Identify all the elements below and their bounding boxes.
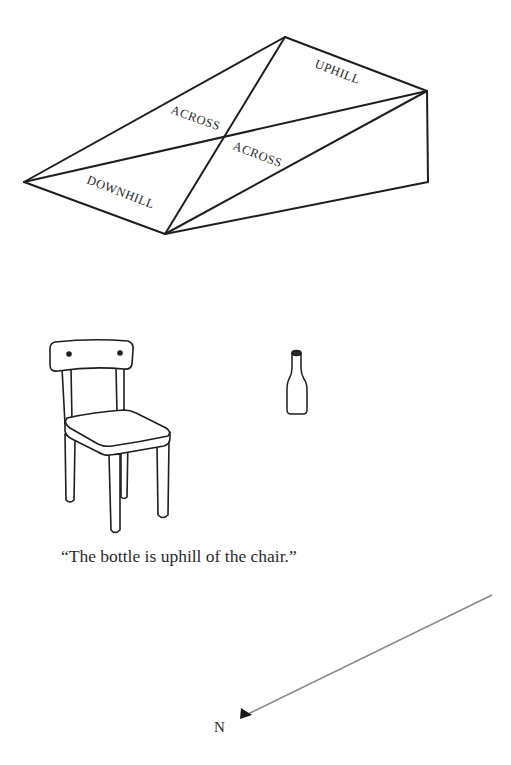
chair-front-left-leg bbox=[65, 434, 75, 502]
north-arrow: N bbox=[214, 595, 492, 735]
label-downhill: DOWNHILL bbox=[85, 173, 157, 212]
chair-back-right-leg bbox=[121, 438, 128, 499]
bottle-cap bbox=[292, 351, 301, 356]
caption: “The bottle is uphill of the chair.” bbox=[61, 546, 297, 567]
chair-seat bbox=[66, 410, 170, 446]
ramp-diagonal-top-bottom bbox=[165, 37, 285, 234]
chair-seat-edge bbox=[65, 421, 170, 455]
north-arrow-line bbox=[248, 595, 492, 714]
chair-backrest-dot-left bbox=[67, 352, 71, 356]
ramp-edge-bottom-slope bbox=[165, 91, 427, 234]
chair-backrest bbox=[50, 340, 133, 371]
label-across-lower: ACROSS bbox=[231, 139, 284, 171]
chair-right-leg bbox=[157, 440, 169, 518]
bottle-drawing bbox=[287, 351, 307, 415]
chair-backrest-dot-right bbox=[118, 351, 122, 355]
north-label: N bbox=[214, 719, 225, 735]
label-across-upper: ACROSS bbox=[169, 103, 222, 134]
label-uphill: UPHILL bbox=[313, 57, 362, 87]
ramp-diagram: UPHILL ACROSS ACROSS DOWNHILL bbox=[0, 0, 511, 260]
ramp-edge-top-left bbox=[24, 37, 285, 182]
north-arrow-head bbox=[240, 708, 252, 719]
ramp-edge-bottom-base bbox=[165, 182, 428, 234]
bottle bbox=[287, 353, 307, 414]
chair-left-post bbox=[62, 368, 72, 424]
ramp-edge-vertical bbox=[427, 91, 428, 182]
chair-front-center-leg bbox=[109, 454, 120, 533]
chair-right-post bbox=[116, 368, 124, 413]
